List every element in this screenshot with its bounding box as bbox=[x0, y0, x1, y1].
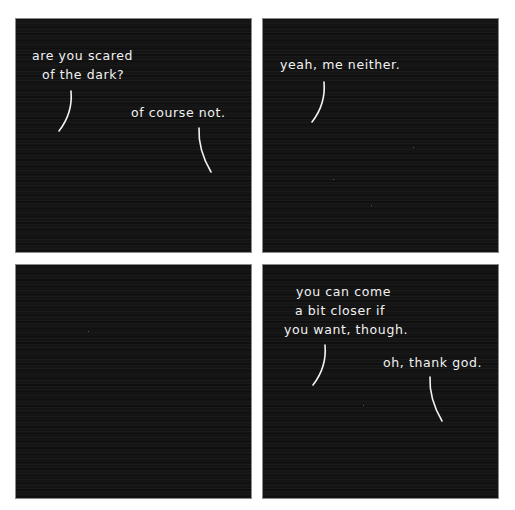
speech-tail-right bbox=[426, 375, 446, 425]
dialogue-line: yeah, me neither. bbox=[280, 55, 400, 74]
speck bbox=[363, 405, 364, 406]
speech-tail-left bbox=[56, 89, 76, 135]
speck bbox=[88, 331, 89, 332]
dialogue-line: of the dark? bbox=[42, 65, 124, 84]
comic-panel-1: are you scared of the dark? of course no… bbox=[16, 19, 251, 252]
speck bbox=[333, 179, 334, 180]
dialogue-line: are you scared bbox=[32, 46, 133, 65]
speech-tail-left bbox=[310, 343, 330, 389]
speech-tail-right bbox=[195, 126, 215, 176]
comic-panel-4: you can come a bit closer if you want, t… bbox=[263, 265, 498, 498]
speck bbox=[371, 205, 372, 206]
speck bbox=[413, 147, 414, 148]
dialogue-line: you want, though. bbox=[284, 320, 408, 339]
speech-tail-left bbox=[309, 80, 329, 126]
dialogue-line: you can come bbox=[296, 282, 391, 301]
comic-panel-2: yeah, me neither. bbox=[263, 19, 498, 252]
dialogue-line: a bit closer if bbox=[295, 301, 385, 320]
dialogue-line: of course not. bbox=[131, 103, 226, 122]
comic-panel-3 bbox=[16, 265, 251, 498]
dialogue-line: oh, thank god. bbox=[383, 353, 482, 372]
